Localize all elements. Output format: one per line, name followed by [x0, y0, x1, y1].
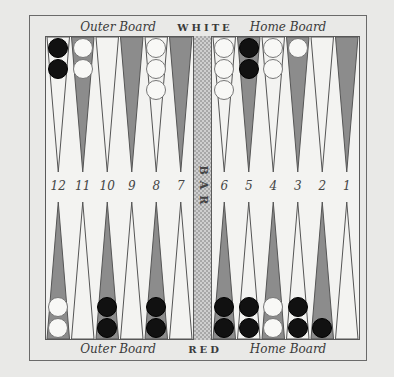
black-checker[interactable] [288, 297, 308, 317]
point-number-10: 10 [100, 179, 115, 193]
bottom-player-label: RED [188, 344, 222, 355]
white-checker[interactable] [73, 59, 93, 79]
point-number-2: 2 [318, 179, 326, 193]
point-number-7: 7 [177, 179, 185, 193]
bar-label: BAR [196, 166, 209, 211]
bottom-left-label: Outer Board [80, 342, 156, 356]
point-bottom-2[interactable] [72, 202, 95, 339]
point-top-12[interactable] [336, 37, 359, 172]
point-number-12: 12 [51, 179, 66, 193]
point-number-5: 5 [245, 179, 253, 193]
bottom-right-label: Home Board [250, 342, 327, 356]
point-top-3[interactable] [96, 37, 119, 172]
point-bottom-4[interactable] [121, 202, 144, 339]
bar[interactable]: BAR [193, 36, 212, 340]
black-checker[interactable] [239, 38, 259, 58]
point-bottom-12[interactable] [336, 202, 359, 339]
black-checker[interactable] [288, 318, 308, 338]
point-number-1: 1 [343, 179, 351, 193]
point-number-6: 6 [220, 179, 228, 193]
white-checker[interactable] [288, 38, 308, 58]
point-top-6[interactable] [170, 37, 193, 172]
white-checker[interactable] [73, 38, 93, 58]
point-bottom-6[interactable] [170, 202, 193, 339]
black-checker[interactable] [239, 59, 259, 79]
black-checker[interactable] [239, 318, 259, 338]
black-checker[interactable] [239, 297, 259, 317]
point-top-11[interactable] [311, 37, 334, 172]
point-top-4[interactable] [121, 37, 144, 172]
point-number-8: 8 [152, 179, 160, 193]
point-number-11: 11 [75, 179, 90, 193]
point-number-3: 3 [294, 179, 302, 193]
point-number-4: 4 [269, 179, 277, 193]
point-number-9: 9 [128, 179, 136, 193]
